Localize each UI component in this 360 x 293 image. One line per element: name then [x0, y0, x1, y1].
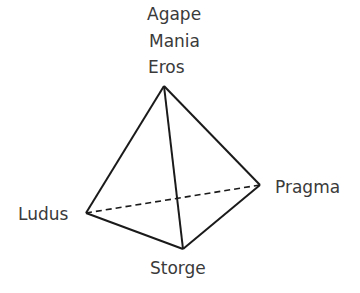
edge-left-right-hidden: [86, 185, 260, 213]
label-ludus: Ludus: [18, 204, 68, 224]
edge-apex-right: [164, 86, 260, 185]
edge-apex-left: [86, 86, 164, 213]
edge-apex-bottom: [164, 86, 183, 249]
label-agape: Agape: [147, 4, 201, 24]
label-pragma: Pragma: [275, 177, 340, 197]
edge-left-bottom: [86, 213, 183, 249]
edge-bottom-right: [183, 185, 260, 249]
label-eros: Eros: [148, 57, 185, 77]
label-storge: Storge: [150, 258, 206, 278]
label-mania: Mania: [149, 31, 200, 51]
